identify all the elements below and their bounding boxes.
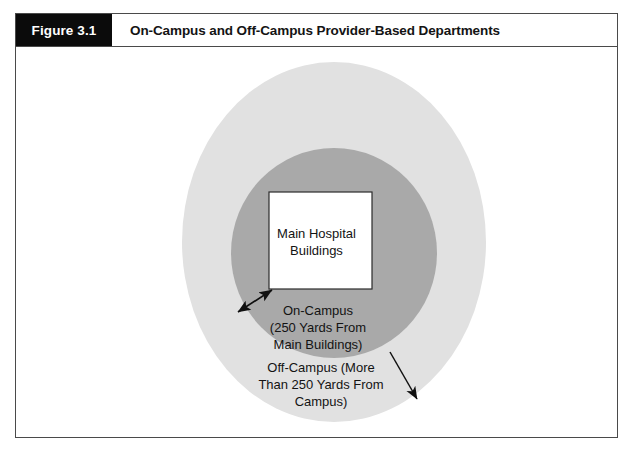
figure-header: Figure 3.1 On-Campus and Off-Campus Prov… [16,14,617,47]
main-hospital-line-2: Buildings [254,242,379,259]
on-campus-line-3: Main Buildings) [238,336,398,353]
figure-frame: Figure 3.1 On-Campus and Off-Campus Prov… [15,13,618,438]
on-campus-line-2: (250 Yards From [238,319,398,336]
figure-number-badge: Figure 3.1 [16,14,112,46]
off-campus-line-1: Off-Campus (More [231,359,411,376]
off-campus-line-3: Campus) [231,393,411,410]
on-campus-line-1: On-Campus [238,302,398,319]
figure-title: On-Campus and Off-Campus Provider-Based … [112,14,617,46]
off-campus-label: Off-Campus (More Than 250 Yards From Cam… [231,359,411,410]
diagram-canvas: Main Hospital Buildings On-Campus (250 Y… [16,47,617,437]
off-campus-line-2: Than 250 Yards From [231,376,411,393]
main-hospital-line-1: Main Hospital [254,225,379,242]
main-hospital-buildings-label: Main Hospital Buildings [254,225,379,259]
on-campus-label: On-Campus (250 Yards From Main Buildings… [238,302,398,353]
